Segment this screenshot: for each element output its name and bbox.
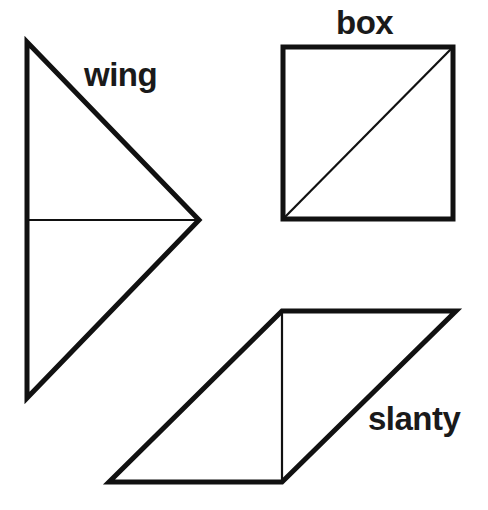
wing-label: wing [84,58,157,91]
box-diagonal-line [284,48,452,218]
wing-shape [27,42,199,398]
box-label: box [336,6,393,39]
slanty-shape [109,311,456,482]
slanty-label: slanty [368,402,460,435]
box-shape [283,47,453,219]
